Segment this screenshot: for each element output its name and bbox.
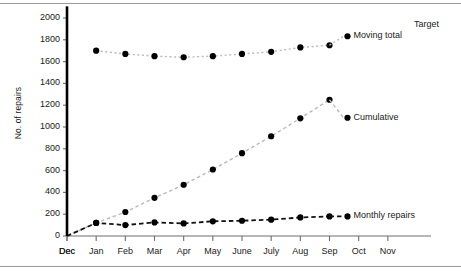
data-point-marker [239, 51, 245, 57]
data-point-marker [181, 182, 187, 188]
chart-figure: No. of repairs 0200400600800100012001400… [0, 0, 461, 271]
data-point-marker [297, 115, 303, 121]
chart-series-cumulative [67, 97, 351, 236]
data-point-marker [151, 195, 157, 201]
data-point-marker [181, 54, 187, 60]
annotation-marker [344, 213, 350, 219]
series-label-target: Target [414, 19, 439, 29]
data-point-marker [122, 209, 128, 215]
axis-lines [63, 16, 431, 241]
data-point-marker [297, 214, 303, 220]
annotation-marker [344, 33, 350, 39]
series-label-cumulative: Cumulative [354, 112, 399, 122]
data-point-marker [268, 49, 274, 55]
data-point-marker [151, 219, 157, 225]
data-point-marker [181, 220, 187, 226]
data-point-marker [122, 51, 128, 57]
data-point-marker [93, 48, 99, 54]
data-point-marker [210, 53, 216, 59]
data-point-marker [210, 218, 216, 224]
series-label-monthly-repairs: Monthly repairs [354, 210, 416, 220]
annotation-leader-line [330, 100, 344, 118]
chart-series-moving-total [93, 33, 351, 60]
series-line [67, 100, 330, 236]
chart-series-monthly-repairs [67, 213, 351, 236]
data-point-marker [268, 217, 274, 223]
annotation-marker [344, 115, 350, 121]
data-point-marker [239, 150, 245, 156]
series-line [67, 216, 330, 236]
data-point-marker [151, 53, 157, 59]
chart-plot-area [0, 0, 461, 271]
data-point-marker [210, 166, 216, 172]
data-point-marker [297, 44, 303, 50]
data-point-marker [93, 220, 99, 226]
data-point-marker [268, 133, 274, 139]
series-label-moving-total: Moving total [354, 30, 403, 40]
data-point-marker [122, 222, 128, 228]
data-point-marker [239, 218, 245, 224]
